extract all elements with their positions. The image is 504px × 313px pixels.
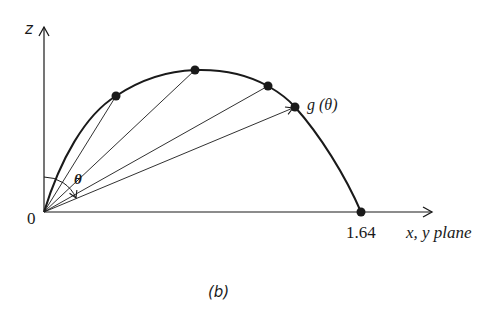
- ray-g-theta-arrow: [44, 108, 293, 212]
- ray-2: [44, 70, 195, 212]
- ray-3: [44, 86, 268, 212]
- curve-point-landing: [357, 208, 366, 217]
- origin-label: 0: [27, 209, 36, 228]
- trajectory-diagram: z 0 θ g (θ) 1.64 x, y plane (b): [0, 0, 504, 313]
- curve-point-3: [264, 82, 273, 91]
- curve-point-1: [112, 92, 121, 101]
- x-axis-label: x, y plane: [405, 223, 472, 242]
- curve-point-g-theta: [291, 103, 300, 112]
- theta-label: θ: [74, 171, 82, 187]
- trajectory-curve: [44, 70, 361, 212]
- x-tick-label: 1.64: [346, 223, 376, 242]
- z-axis-label: z: [24, 20, 34, 38]
- g-theta-label: g (θ): [307, 96, 338, 114]
- figure-caption: (b): [208, 283, 229, 301]
- curve-point-2: [191, 66, 200, 75]
